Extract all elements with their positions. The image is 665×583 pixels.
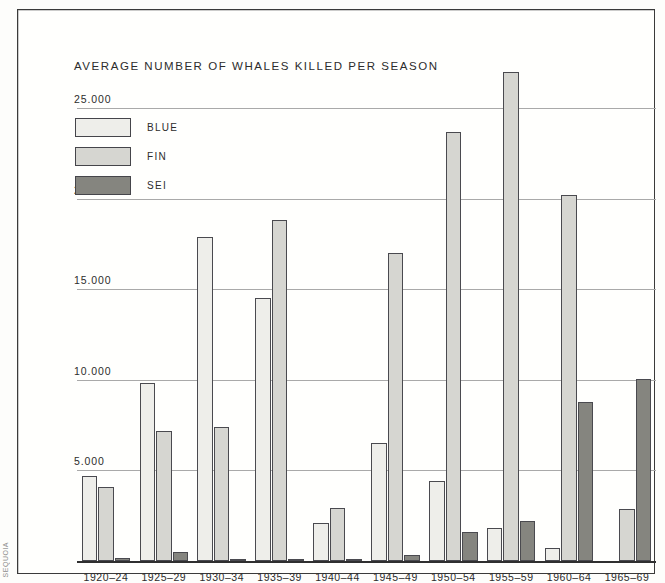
- bar-group: 1940–44: [309, 50, 367, 561]
- bar-group: 1935–39: [251, 50, 309, 561]
- plot-area: 25.00020.00015.00010.0005.000 BLUEFINSEI…: [77, 50, 656, 562]
- bar-blue[interactable]: [140, 383, 156, 562]
- bar-fin[interactable]: [503, 72, 519, 561]
- bar-sei[interactable]: [462, 532, 478, 561]
- x-axis-label: 1950–54: [424, 571, 482, 583]
- bar-group: 1925–29: [135, 50, 193, 561]
- x-axis-baseline: [77, 561, 656, 563]
- bar-sei[interactable]: [346, 559, 362, 562]
- bar-blue[interactable]: [313, 523, 329, 561]
- bar-group: 1965–69: [598, 50, 656, 561]
- bar-blue[interactable]: [487, 528, 503, 561]
- bar-group: 1930–34: [193, 50, 251, 561]
- bar-group: 1955–59: [482, 50, 540, 561]
- figure-page: SEQUOIA AVERAGE NUMBER OF WHALES KILLED …: [0, 0, 665, 583]
- x-axis-label: 1955–59: [482, 571, 540, 583]
- bar-group: 1920–24: [77, 50, 135, 561]
- bar-sei[interactable]: [520, 521, 536, 561]
- bar-group: 1960–64: [540, 50, 598, 561]
- chart-frame: AVERAGE NUMBER OF WHALES KILLED PER SEAS…: [17, 9, 655, 574]
- bar-sei[interactable]: [636, 379, 652, 561]
- bar-fin[interactable]: [561, 195, 577, 561]
- bar-sei[interactable]: [578, 402, 594, 562]
- bar-sei[interactable]: [404, 555, 420, 561]
- bar-fin[interactable]: [214, 427, 230, 561]
- bar-fin[interactable]: [619, 509, 635, 562]
- bar-fin[interactable]: [98, 487, 114, 561]
- x-axis-label: 1960–64: [540, 571, 598, 583]
- bar-fin[interactable]: [446, 132, 462, 562]
- x-axis-label: 1945–49: [367, 571, 425, 583]
- bar-group: 1950–54: [424, 50, 482, 561]
- bar-sei[interactable]: [115, 558, 131, 561]
- bar-blue[interactable]: [255, 298, 271, 561]
- x-axis-label: 1920–24: [77, 571, 135, 583]
- bar-fin[interactable]: [388, 253, 404, 561]
- bar-blue[interactable]: [429, 481, 445, 561]
- x-axis-label: 1930–34: [193, 571, 251, 583]
- x-axis-label: 1965–69: [598, 571, 656, 583]
- bar-blue[interactable]: [371, 443, 387, 561]
- bar-group: 1945–49: [367, 50, 425, 561]
- x-axis-label: 1935–39: [251, 571, 309, 583]
- bar-fin[interactable]: [156, 431, 172, 562]
- x-axis-label: 1940–44: [309, 571, 367, 583]
- bar-fin[interactable]: [272, 220, 288, 561]
- bar-sei[interactable]: [288, 559, 304, 562]
- bar-sei[interactable]: [173, 552, 189, 561]
- bar-sei[interactable]: [230, 559, 246, 562]
- spine-caption: SEQUOIA: [2, 542, 16, 577]
- x-axis-label: 1925–29: [135, 571, 193, 583]
- bar-blue[interactable]: [82, 476, 98, 561]
- bar-fin[interactable]: [330, 508, 346, 562]
- bar-blue[interactable]: [545, 548, 561, 561]
- bar-blue[interactable]: [197, 237, 213, 561]
